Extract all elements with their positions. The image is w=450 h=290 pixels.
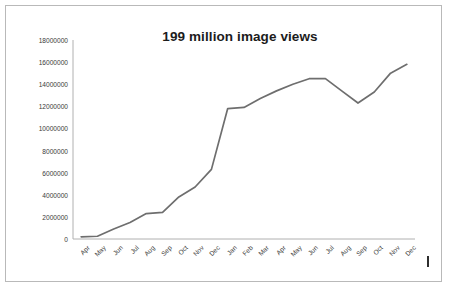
data-series-line (81, 64, 407, 236)
chart-screenshot: 199 million image views 1800000016000000… (0, 0, 450, 290)
line-plot (0, 0, 450, 290)
corner-tick-mark (427, 256, 429, 267)
